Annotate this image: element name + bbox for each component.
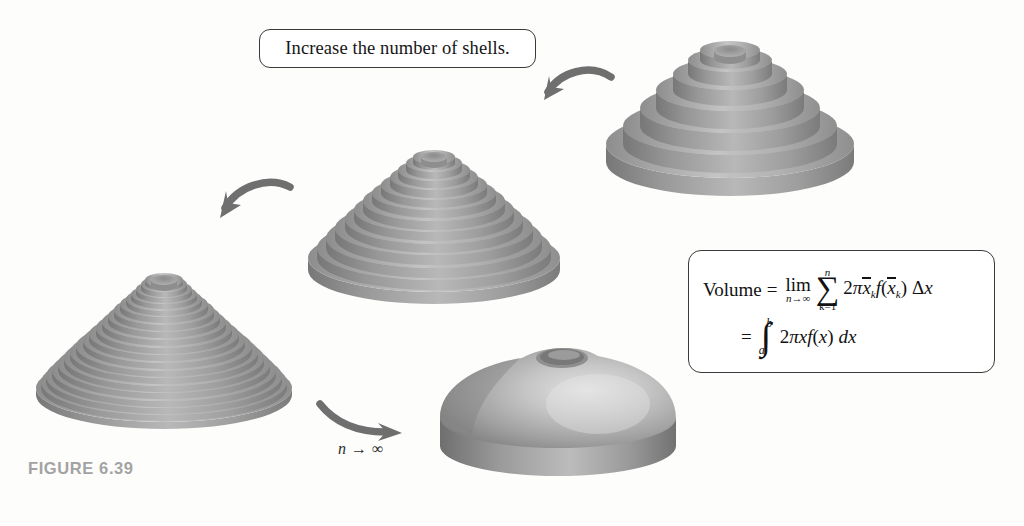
- formula-integrand-x: x: [799, 326, 807, 347]
- curved-arrow-top-icon: [544, 70, 611, 100]
- formula-equals-2: =: [741, 327, 752, 346]
- formula-summation-operator: n ∑ k=1: [816, 267, 840, 312]
- formula-integrand-d: d: [839, 326, 849, 347]
- callout-increase-shells-text: Increase the number of shells.: [285, 38, 509, 59]
- formula-term-paren-close: ): [901, 277, 907, 298]
- formula-term-pi: π: [853, 277, 863, 298]
- formula-term-x: x: [924, 277, 932, 298]
- formula-term-delta: Δ: [912, 277, 924, 298]
- formula-integrand-var: x: [819, 326, 827, 347]
- limit-annotation-arrow: →: [351, 440, 367, 457]
- formula-integrand-paren-close: ): [827, 326, 833, 347]
- limit-annotation-infinity: ∞: [372, 440, 383, 457]
- formula-term-xbar: x: [862, 278, 870, 297]
- formula-integrand-dx-x: x: [848, 326, 856, 347]
- formula-sigma-lower: k=1: [819, 301, 836, 312]
- figure-caption: FIGURE 6.39: [28, 459, 134, 478]
- curved-arrow-middle-icon: [220, 183, 290, 218]
- figure-canvas: Increase the number of shells. n→∞ Volum…: [0, 0, 1024, 526]
- formula-term-2: 2: [843, 277, 853, 298]
- formula-line-2: = b ∫ a 2πxf(x)dx: [741, 317, 857, 356]
- formula-sigma-glyph: ∑: [816, 276, 840, 302]
- formula-term-xbar-2: x: [887, 278, 895, 297]
- formula-limit-operator: lim n→∞: [785, 275, 810, 304]
- limit-annotation-n: n: [338, 440, 346, 457]
- formula-integral-operator: b ∫ a: [759, 317, 773, 356]
- formula-line-1: Volume = lim n→∞ n ∑ k=1 2πxkf(xk)Δx: [703, 267, 933, 312]
- formula-volume-label: Volume: [703, 280, 762, 299]
- formula-summand: 2πxkf(xk)Δx: [843, 278, 932, 300]
- formula-integrand-2: 2: [780, 326, 790, 347]
- callout-increase-shells: Increase the number of shells.: [259, 29, 536, 68]
- formula-lim-sub-infinity: ∞: [802, 292, 810, 304]
- formula-lim-sub-arrow: →: [791, 292, 802, 304]
- formula-integral-lower-limit: a: [759, 344, 765, 356]
- formula-lim-subscript: n→∞: [786, 293, 810, 304]
- curved-arrow-bottom-icon: [320, 404, 402, 441]
- formula-equals-1: =: [767, 280, 778, 299]
- volume-formula-box: Volume = lim n→∞ n ∑ k=1 2πxkf(xk)Δx = b…: [688, 250, 995, 373]
- limit-annotation-n-to-infinity: n→∞: [338, 440, 383, 458]
- formula-integrand: 2πxf(x)dx: [780, 327, 857, 346]
- formula-integrand-pi: π: [789, 326, 799, 347]
